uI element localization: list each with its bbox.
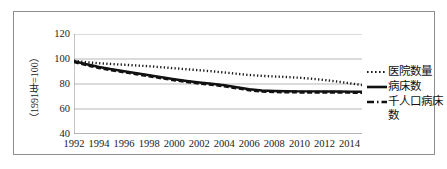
x-tick-label-2010: 2010: [289, 138, 310, 150]
x-tick-label-2002: 2002: [189, 138, 210, 150]
y-tick-100: 100: [46, 54, 70, 64]
x-tick-label-2000: 2000: [164, 138, 185, 150]
legend-label-0: 医院数量: [388, 65, 432, 79]
legend-item-2: 千人口病床数: [366, 95, 446, 122]
series-line-0: [74, 61, 362, 85]
series-line-1: [74, 61, 362, 92]
chart-frame-border: （1991年=100） 120 100 80 60 40 199219941: [13, 11, 435, 155]
plot-area: [74, 34, 362, 134]
x-tick-label-1996: 1996: [114, 138, 135, 150]
x-tick-label-1994: 1994: [89, 138, 110, 150]
legend-item-1: 病床数: [366, 80, 446, 94]
x-tick-label-2006: 2006: [239, 138, 260, 150]
data-series-group: [74, 61, 362, 93]
y-axis-tick-labels: 120 100 80 60 40: [42, 34, 70, 134]
x-tick-label-2004: 2004: [214, 138, 235, 150]
x-axis-tick-labels: 1992199419961998200020022004200620082010…: [74, 138, 362, 152]
series-line-2: [74, 62, 362, 93]
x-tick-label-2008: 2008: [264, 138, 285, 150]
legend-label-1: 病床数: [388, 80, 421, 94]
legend-marker-dotted-icon: [366, 65, 388, 78]
chart-legend: 医院数量 病床数 千人口病床数: [366, 65, 446, 123]
y-tick-60: 60: [46, 104, 70, 114]
y-tick-120: 120: [46, 29, 70, 39]
chart-figure: （1991年=100） 120 100 80 60 40 199219941: [0, 0, 447, 169]
x-tick-label-2014: 2014: [339, 138, 360, 150]
legend-marker-dashed-icon: [366, 95, 388, 108]
y-tick-80: 80: [46, 79, 70, 89]
legend-item-0: 医院数量: [366, 65, 446, 79]
x-tick-label-2012: 2012: [314, 138, 335, 150]
x-tick-label-1992: 1992: [64, 138, 85, 150]
legend-marker-solid-icon: [366, 80, 388, 93]
x-tick-label-1998: 1998: [139, 138, 160, 150]
y-axis-title: （1991年=100）: [28, 42, 42, 134]
plot-svg: [74, 34, 362, 134]
legend-label-2: 千人口病床数: [388, 95, 446, 122]
